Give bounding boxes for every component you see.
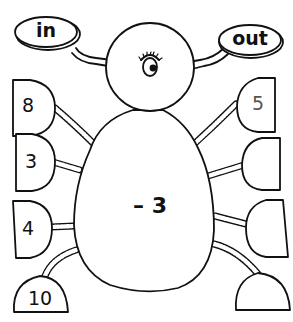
input-value-2: 3 [19,150,43,172]
input-label: in [18,19,74,41]
output-label: out [220,27,280,49]
foot-right-3 [246,200,288,257]
foot-right-4 [236,273,290,310]
output-value-1[interactable]: 5 [246,92,270,114]
foot-right-2 [242,138,280,190]
input-value-4: 10 [23,287,57,309]
input-value-3: 4 [16,217,40,239]
operation-label: – 3 [110,193,190,218]
input-value-1: 8 [16,94,40,116]
